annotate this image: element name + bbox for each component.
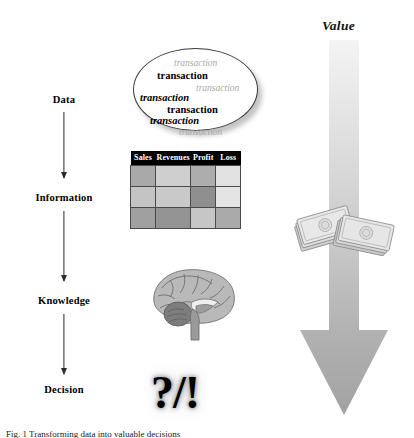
transaction-word: transaction	[157, 71, 208, 82]
table-cell	[131, 186, 156, 207]
arrow-head-icon	[61, 368, 67, 375]
transaction-word: transaction	[174, 59, 217, 69]
figure-caption: Fig. 1 Transforming data into valuable d…	[6, 429, 180, 438]
table-cell	[216, 186, 241, 207]
table-cell	[216, 207, 241, 228]
question-exclamation-glyph: ?/!	[151, 370, 199, 416]
table-cell	[191, 186, 216, 207]
flow-arrow-data-to-information	[57, 112, 71, 178]
flow-arrow-information-to-knowledge	[57, 211, 71, 281]
arrow-head-icon	[61, 172, 67, 179]
stage-label-knowledge: Knowledge	[38, 295, 90, 306]
transaction-word: transaction	[140, 93, 189, 104]
table-cell	[156, 207, 191, 228]
table-cell	[131, 165, 156, 186]
table-column-header: Sales	[131, 151, 156, 165]
table-column-header: Loss	[216, 151, 241, 165]
stage-label-information: Information	[35, 192, 92, 203]
stage-label-data: Data	[53, 94, 75, 105]
information-table: Sales Revenues Profit Loss	[130, 151, 241, 229]
table-column-header: Profit	[191, 151, 216, 165]
stage-label-decision: Decision	[44, 384, 84, 395]
table-cell	[156, 186, 191, 207]
transaction-word: transaction	[167, 105, 218, 116]
brain-icon	[146, 262, 242, 344]
table-row	[131, 207, 241, 228]
arrow-head-icon	[61, 275, 67, 282]
transaction-word: transaction	[150, 116, 199, 127]
transaction-word: transaction	[196, 84, 239, 94]
banknote-stack-icon	[294, 196, 402, 268]
table-header-row: Sales Revenues Profit Loss	[131, 151, 241, 165]
table-column-header: Revenues	[156, 151, 191, 165]
table-row	[131, 165, 241, 186]
arrow-shaft	[63, 112, 64, 178]
flow-arrow-knowledge-to-decision	[57, 314, 71, 374]
table-cell	[216, 165, 241, 186]
table-row	[131, 186, 241, 207]
transaction-cloud: transaction transaction transaction tran…	[133, 48, 258, 131]
value-chain-figure: Data Information Knowledge Decision tran…	[0, 0, 414, 438]
arrow-shaft	[63, 211, 64, 281]
table-cell	[191, 207, 216, 228]
arrow-shaft	[63, 314, 64, 374]
table-cell	[156, 165, 191, 186]
table-cell	[191, 165, 216, 186]
table-cell	[131, 207, 156, 228]
value-label: Value	[322, 18, 355, 34]
transaction-word: transaction	[179, 128, 222, 138]
